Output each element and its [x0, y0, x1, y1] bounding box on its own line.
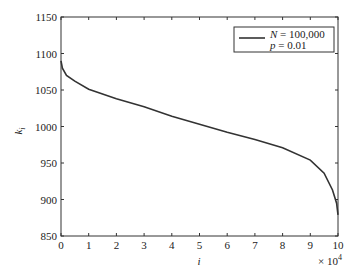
x-tick-label: 8 [280, 239, 286, 251]
y-tick-labels: 8509009501000105011001150 [35, 11, 58, 242]
x-tick-label: 0 [58, 239, 64, 251]
x-tick-label: 9 [308, 239, 314, 251]
legend: N = 100,000 p = 0.01 [234, 27, 334, 52]
y-tick-label: 950 [41, 157, 58, 169]
x-tick-label: 4 [169, 239, 175, 251]
y-tick-label: 1050 [35, 84, 58, 96]
x-tick-label: 2 [114, 239, 120, 251]
y-tick-label: 1100 [35, 48, 57, 60]
y-axis-label: ki [12, 127, 27, 134]
y-tick-label: 1150 [35, 11, 57, 23]
x-tick-label: 7 [252, 239, 258, 251]
x-tick-label: 1 [86, 239, 92, 251]
x-tick-label: 5 [197, 239, 203, 251]
x-tick-label: 6 [224, 239, 230, 251]
x-axis-label: i [197, 255, 200, 267]
y-tick-label: 900 [41, 194, 58, 206]
legend-label-p: p = 0.01 [269, 39, 306, 51]
x-axis-multiplier: × 104 [318, 253, 342, 267]
y-tick-label: 1000 [35, 121, 58, 133]
x-tick-labels: 012345678910 [58, 239, 344, 251]
data-line [61, 61, 338, 215]
y-tick-label: 850 [41, 230, 58, 242]
x-tick-label: 10 [333, 239, 345, 251]
x-tick-label: 3 [141, 239, 147, 251]
line-chart: 012345678910 8509009501000105011001150 i… [0, 0, 363, 278]
